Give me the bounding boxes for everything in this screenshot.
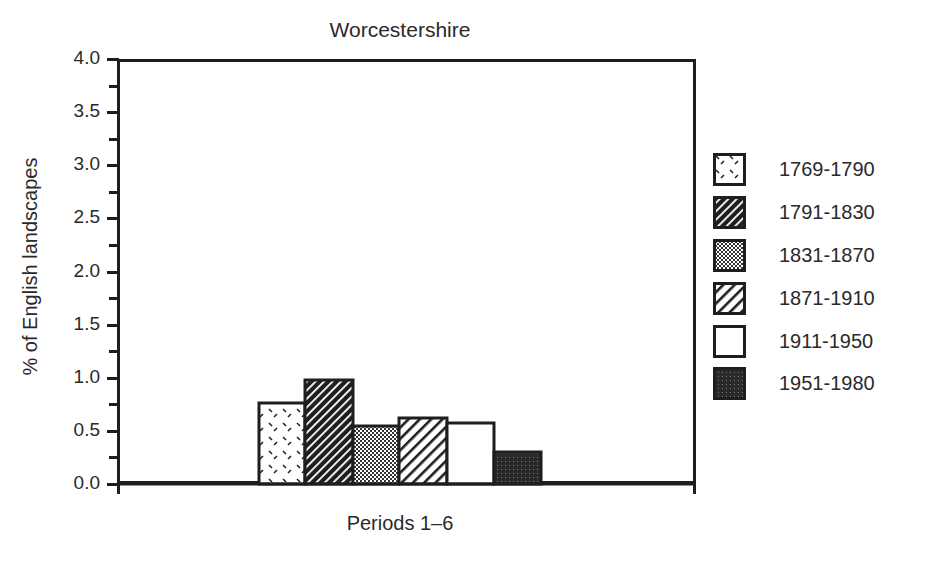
legend-swatch-light-diagonal bbox=[713, 282, 747, 316]
legend-label: 1871-1910 bbox=[779, 287, 875, 310]
bar-1871-1910 bbox=[399, 418, 447, 484]
legend-swatch-white bbox=[713, 325, 747, 359]
legend-swatch-dense-diagonal bbox=[713, 196, 747, 230]
legend-label: 1951-1980 bbox=[779, 372, 875, 395]
legend-label: 1791-1830 bbox=[779, 201, 875, 224]
legend-swatch-checker bbox=[713, 239, 747, 273]
x-axis-label: Periods 1–6 bbox=[300, 512, 500, 535]
bar-1791-1830 bbox=[305, 380, 353, 484]
bar-1769-1790 bbox=[259, 403, 305, 484]
bar-1831-1870 bbox=[353, 426, 399, 484]
legend-swatch-dashes bbox=[713, 153, 747, 187]
bars-layer bbox=[0, 0, 929, 562]
legend-label: 1911-1950 bbox=[779, 330, 873, 353]
legend-swatch-dark bbox=[713, 367, 747, 401]
bar-1911-1950 bbox=[447, 423, 494, 484]
legend-label: 1769-1790 bbox=[779, 158, 875, 181]
bar-1951-1980 bbox=[494, 452, 541, 484]
legend-label: 1831-1870 bbox=[779, 244, 875, 267]
